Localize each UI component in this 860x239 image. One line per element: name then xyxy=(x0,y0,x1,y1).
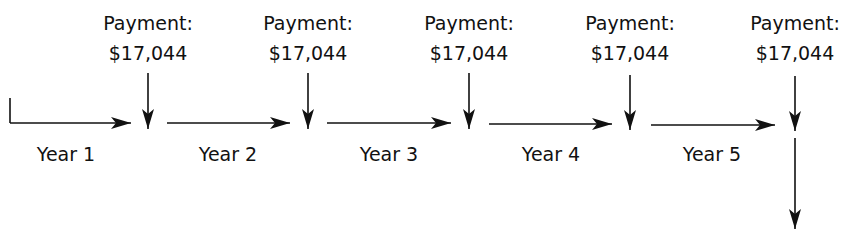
arrows-layer xyxy=(0,0,860,239)
